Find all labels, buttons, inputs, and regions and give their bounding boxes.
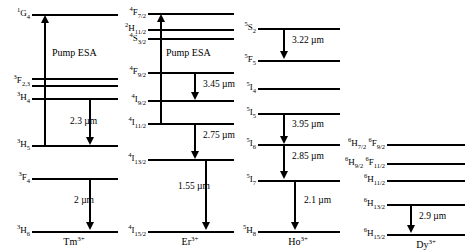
ho-level-line-5i4: [258, 88, 340, 90]
dy-level-line-6h112: [387, 180, 465, 182]
er-level-label-4f72: 4F7/2: [112, 8, 146, 17]
er-transition-arrow-head-2: [191, 151, 199, 159]
tm-ion-label: Tm3+: [44, 237, 104, 247]
er-level-line-4i152: [148, 231, 234, 233]
dy-level-label-6h72-6f92: 6H7/2 6F9/2: [336, 139, 385, 148]
er-transition-label-3: 1.55 µm: [178, 182, 210, 192]
tm-level-label-3h6: 3H6: [2, 226, 30, 235]
ho-level-label-5s2: 5S2: [230, 23, 256, 32]
dy-transition-arrow-shaft-1: [410, 205, 412, 227]
tm-level-line-3f4: [32, 178, 118, 180]
dy-transition-label-1: 2.9 µm: [419, 212, 446, 222]
ho-transition-label-4: 2.1 µm: [304, 196, 331, 206]
dy-ion-label: Dy3+: [396, 240, 456, 250]
er-pump-label: Pump ESA: [166, 48, 211, 58]
ho-level-label-5h8: 5H8: [231, 226, 256, 235]
dy-level-label-6h92-6f112: 6H9/2 6F11/2: [333, 158, 385, 167]
ho-transition-arrow-shaft-1: [283, 29, 285, 53]
er-level-label-4i112: 4I11/2: [109, 118, 146, 127]
tm-transition-label-2: 2 µm: [74, 196, 94, 206]
er-transition-arrow-shaft-3: [205, 160, 207, 224]
tm-pump-arrow-shaft: [44, 18, 46, 146]
er-transition-arrow-head-3: [202, 222, 210, 230]
ho-level-line-5i5: [258, 113, 340, 115]
ho-transition-arrow-shaft-4: [294, 181, 296, 224]
ho-level-label-5i4: 5I4: [231, 83, 256, 92]
ho-level-label-5f5: 5F5: [230, 55, 256, 64]
tm-level-label-3h4: 3H4: [2, 93, 30, 102]
ho-level-line-5h8: [258, 231, 340, 233]
er-transition-arrow-shaft-2: [194, 124, 196, 153]
er-level-label-4f92: 4F9/2: [112, 67, 146, 76]
ho-transition-arrow-head-3: [280, 171, 288, 179]
tm-transition-label-1: 2.3 µm: [70, 117, 97, 127]
er-transition-arrow-shaft-1: [194, 73, 196, 94]
er-transition-arrow-head-1: [191, 92, 199, 100]
ho-ion-label: Ho3+: [268, 237, 328, 247]
dy-level-label-6h112: 6H11/2: [348, 175, 385, 184]
er-pump-arrow-shaft: [160, 17, 162, 124]
dy-level-line-6h152: [387, 234, 465, 236]
ho-transition-arrow-head-2: [280, 136, 288, 144]
ho-transition-label-2: 3.95 µm: [292, 120, 324, 130]
ho-level-line-5i6: [258, 144, 340, 146]
tm-pump-label: Pump ESA: [52, 48, 97, 58]
ho-transition-arrow-head-1: [280, 51, 288, 59]
dy-level-line-6h132: [387, 204, 465, 206]
dy-level-line-6h92-6f112: [387, 163, 465, 165]
ho-transition-arrow-shaft-3: [283, 145, 285, 173]
energy-level-diagram: 1G4 3F2,3 3H4 3H5 3F4 3H6 Pump ESA 2.3 µ…: [0, 0, 468, 252]
er-level-line-4i132: [148, 159, 234, 161]
er-level-label-4i92: 4I9/2: [113, 95, 146, 104]
dy-transition-arrow-head-1: [407, 225, 415, 233]
ho-transition-arrow-head-4: [291, 222, 299, 230]
er-level-label-4i152: 4I15/2: [109, 226, 146, 235]
tm-transition-arrow-head-2: [86, 222, 94, 230]
tm-level-label-3f23: 3F2,3: [0, 76, 30, 85]
ho-transition-arrow-shaft-2: [283, 114, 285, 138]
ho-level-label-5i7: 5I7: [231, 175, 256, 184]
dy-level-label-6h132: 6H13/2: [348, 199, 385, 208]
dy-level-line-6h72-6f92: [387, 144, 465, 146]
tm-pump-arrow-head: [41, 15, 49, 23]
er-pump-arrow-head: [157, 14, 165, 22]
ho-transition-label-3: 2.85 µm: [292, 152, 324, 162]
ho-level-line-5i7: [258, 180, 340, 182]
ho-level-line-5s2: [258, 28, 340, 30]
er-level-label-4i132: 4I13/2: [109, 154, 146, 163]
ho-level-label-5i6: 5I6: [231, 139, 256, 148]
ho-level-line-5f5: [258, 60, 340, 62]
er-level-label-4s32: 4S3/2: [110, 34, 146, 43]
er-level-label-2h112: 2H11/2: [108, 24, 146, 33]
ho-level-label-5i5: 5I5: [231, 108, 256, 117]
tm-level-label-3f4: 3F4: [2, 173, 30, 182]
tm-transition-arrow-head-1: [86, 137, 94, 145]
tm-level-label-3h5: 3H5: [2, 140, 30, 149]
tm-level-line-3h6: [32, 231, 118, 233]
er-ion-label: Er3+: [160, 237, 220, 247]
dy-level-label-6h152: 6H15/2: [348, 229, 385, 238]
tm-level-label-1g4: 1G4: [2, 9, 30, 18]
ho-transition-label-1: 3.22 µm: [292, 36, 324, 46]
